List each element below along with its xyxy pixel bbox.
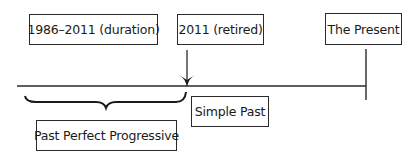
- duration-label: 1986–2011 (duration): [29, 14, 158, 45]
- brace-icon: [25, 92, 186, 108]
- simple-past-label: Simple Past: [191, 96, 269, 127]
- present-label: The Present: [325, 13, 402, 45]
- past-perfect-progressive-label: Past Perfect Progressive: [36, 120, 177, 151]
- arrow-down-icon: [179, 50, 195, 87]
- retired-label: 2011 (retired): [177, 14, 264, 45]
